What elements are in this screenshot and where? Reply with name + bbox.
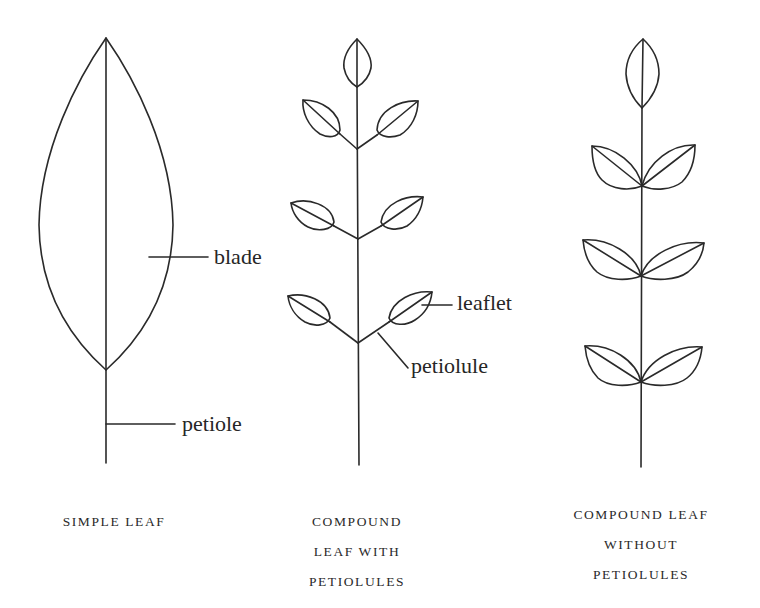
terminal-leaflet-midrib: [642, 39, 643, 108]
leaflet-midrib: [389, 292, 432, 322]
compound-leaf-without-petiolules-drawing: [583, 39, 704, 467]
caption-line: LEAF WITH: [309, 537, 405, 567]
leaflet-midrib: [288, 296, 330, 322]
leaflet-label: leaflet: [457, 292, 512, 314]
caption-line: COMPOUND LEAF: [573, 500, 708, 530]
caption-line: SIMPLE LEAF: [63, 507, 166, 537]
petiolule-label: petiolule: [411, 355, 488, 377]
leaflet-midrib: [592, 146, 642, 186]
caption-compound-without-petiolules: COMPOUND LEAF WITHOUT PETIOLULES: [573, 500, 708, 590]
petiolule-middle-left: [334, 226, 358, 239]
caption-line: WITHOUT: [573, 530, 708, 560]
blade-label: blade: [214, 246, 262, 268]
caption-line: COMPOUND: [309, 507, 405, 537]
leaf-types-diagram: blade petiole leaflet petiolule SIMPLE L…: [0, 0, 760, 608]
petiolule-pointer-line: [378, 333, 408, 368]
petiolule-bottom-left: [330, 322, 358, 343]
caption-compound-with-petiolules: COMPOUND LEAF WITH PETIOLULES: [309, 507, 405, 597]
simple-leaf-drawing: [39, 38, 208, 463]
petiolule-middle-right: [358, 226, 381, 239]
caption-line: PETIOLULES: [309, 567, 405, 597]
leaflet-midrib: [381, 197, 423, 226]
petiolule-top-left: [340, 134, 357, 149]
petiole-label: petiole: [182, 413, 242, 435]
rachis: [357, 87, 359, 465]
compound-leaf-with-petiolules-drawing: [288, 39, 452, 465]
leaflet-midrib: [303, 100, 340, 134]
leaflet-midrib: [377, 101, 418, 135]
caption-line: PETIOLULES: [573, 560, 708, 590]
rachis: [641, 108, 642, 467]
leaflet-midrib: [291, 203, 334, 226]
caption-simple-leaf: SIMPLE LEAF: [63, 507, 166, 537]
petiolule-top-right: [357, 135, 377, 149]
leaflet-midrib: [641, 243, 704, 276]
